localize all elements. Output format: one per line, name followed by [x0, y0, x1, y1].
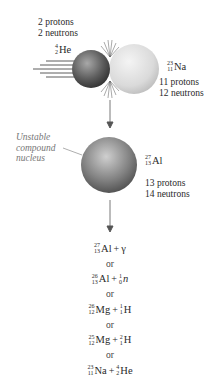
aluminum-protons-text: 13 protons: [145, 178, 190, 189]
or-separator: or: [50, 350, 170, 360]
sodium-protons-text: 11 protons: [159, 77, 204, 88]
helium-protons-text: 2 protons: [38, 17, 78, 28]
aluminum-neutrons-text: 14 neutrons: [145, 189, 190, 200]
aluminum-isotope-symbol: 2713 Al: [145, 154, 163, 166]
sodium-isotope-symbol: 2311 Na: [167, 60, 186, 72]
motion-lines-icon: [33, 61, 75, 77]
arrow-down-icon: [107, 200, 113, 232]
aluminum-compound-nucleus-sphere: [81, 137, 137, 193]
product-option-4: 2512Mg + 21H: [50, 334, 170, 347]
product-option-5: 2311Na + 42He: [50, 364, 170, 377]
arrow-down-icon: [107, 100, 113, 128]
product-option-3: 2612Mg + 11H: [50, 303, 170, 316]
helium-composition-label: 2 protons 2 neutrons: [38, 17, 78, 39]
annotation-leader-line: [63, 148, 82, 155]
unstable-compound-annotation: Unstable compound nucleus: [16, 132, 56, 164]
helium-nucleus-sphere: [72, 50, 110, 88]
decay-products-list: 2713Al + γ or 2613Al + 10n or 2612Mg + 1…: [50, 242, 170, 381]
or-separator: or: [50, 289, 170, 299]
helium-isotope-symbol: 42 He: [55, 43, 71, 55]
or-separator: or: [50, 320, 170, 330]
or-separator: or: [50, 259, 170, 269]
aluminum-composition-label: 13 protons 14 neutrons: [145, 178, 190, 200]
sodium-neutrons-text: 12 neutrons: [159, 88, 204, 99]
sodium-nucleus-sphere: [109, 44, 159, 94]
product-option-2: 2613Al + 10n: [50, 273, 170, 286]
product-option-1: 2713Al + γ: [50, 242, 170, 255]
helium-neutrons-text: 2 neutrons: [38, 28, 78, 39]
sodium-composition-label: 11 protons 12 neutrons: [159, 77, 204, 99]
